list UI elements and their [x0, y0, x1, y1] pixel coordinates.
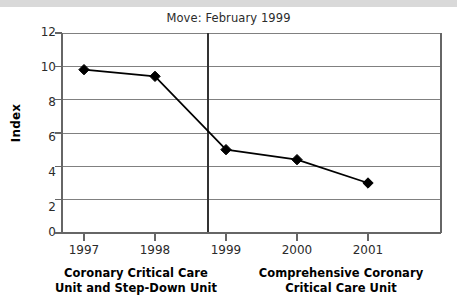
- x-tick-marks: [84, 233, 368, 241]
- chart-figure: Move: February 1999 Index 12 10 8 6 4 2 …: [0, 0, 457, 305]
- plot-area: [0, 0, 457, 305]
- gridlines-group: [62, 33, 441, 233]
- y-tick-marks: [55, 33, 62, 233]
